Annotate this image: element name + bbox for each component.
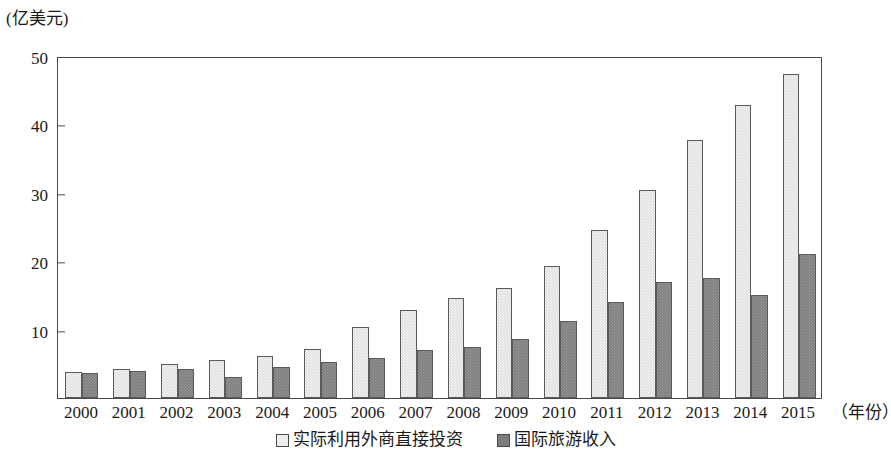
x-axis-tick-label: 2003 (207, 402, 241, 424)
x-axis-title: （年份） (831, 402, 891, 424)
bar-tourism (225, 377, 242, 398)
x-axis-tick-label: 2012 (638, 402, 672, 424)
x-axis-tick-label: 2006 (351, 402, 385, 424)
bar-group (400, 58, 433, 398)
bar-group (209, 58, 242, 398)
legend-item: 实际利用外商直接投资 (276, 429, 463, 451)
x-axis-tick-label: 2013 (685, 402, 719, 424)
bar-group (544, 58, 577, 398)
bar-group (161, 58, 194, 398)
bar-tourism (751, 295, 768, 398)
bar-fdi (352, 327, 369, 398)
bar-group (257, 58, 290, 398)
x-axis-tick-label: 2015 (781, 402, 815, 424)
bar-fdi (544, 266, 561, 398)
bar-group (448, 58, 481, 398)
x-axis-tick-label: 2011 (590, 402, 623, 424)
bar-tourism (464, 347, 481, 398)
y-axis-tick-label: 20 (31, 255, 58, 272)
legend-swatch-fdi-icon (276, 434, 289, 447)
bar-fdi (639, 190, 656, 398)
bar-group (496, 58, 529, 398)
bar-fdi (783, 74, 800, 398)
x-axis-tick-label: 2002 (160, 402, 194, 424)
bar-tourism (560, 321, 577, 398)
bar-group (304, 58, 337, 398)
x-axis-tick-label: 2001 (112, 402, 146, 424)
bar-group (735, 58, 768, 398)
bar-tourism (178, 369, 195, 398)
bar-fdi (496, 288, 513, 398)
bar-fdi (448, 298, 465, 398)
chart-legend: 实际利用外商直接投资国际旅游收入 (0, 429, 891, 451)
plot-area: 1020304050 (57, 57, 822, 399)
bar-tourism (417, 350, 434, 398)
bar-fdi (400, 310, 417, 398)
y-axis-unit-caption: (亿美元) (6, 4, 68, 29)
bar-group (639, 58, 672, 398)
bar-chart: (亿美元) 1020304050 20002001200220032004200… (0, 0, 891, 455)
x-axis-tick-label: 2005 (303, 402, 337, 424)
bar-tourism (273, 367, 290, 398)
bar-tourism (512, 339, 529, 399)
legend-item: 国际旅游收入 (497, 429, 616, 451)
x-axis-tick-label: 2004 (255, 402, 289, 424)
bar-group (591, 58, 624, 398)
legend-label: 实际利用外商直接投资 (293, 429, 463, 451)
bar-fdi (257, 356, 274, 398)
bar-fdi (735, 105, 752, 398)
bar-tourism (369, 358, 386, 398)
x-axis-tick-label: 2000 (64, 402, 98, 424)
bar-tourism (656, 282, 673, 398)
bar-tourism (703, 278, 720, 398)
y-axis-tick-label: 40 (31, 118, 58, 135)
bar-tourism (130, 371, 147, 398)
bar-group (783, 58, 816, 398)
bar-fdi (113, 369, 130, 398)
bar-group (352, 58, 385, 398)
bar-fdi (65, 372, 82, 398)
bar-tourism (799, 254, 816, 398)
legend-label: 国际旅游收入 (514, 429, 616, 451)
x-axis-tick-label: 2010 (542, 402, 576, 424)
bar-fdi (304, 349, 321, 398)
bar-tourism (608, 302, 625, 398)
bar-fdi (161, 364, 178, 398)
legend-swatch-tourism-icon (497, 434, 510, 447)
bar-group (65, 58, 98, 398)
x-axis-tick-label: 2008 (446, 402, 480, 424)
y-axis-tick-label: 10 (31, 323, 58, 340)
y-axis-tick-label: 50 (31, 50, 58, 67)
bar-tourism (321, 362, 338, 398)
bar-group (113, 58, 146, 398)
x-axis-labels: 2000200120022003200420052006200720082009… (57, 402, 822, 428)
bar-groups (58, 58, 821, 398)
bar-fdi (687, 140, 704, 398)
x-axis-tick-label: 2014 (733, 402, 767, 424)
bar-tourism (82, 373, 99, 398)
x-axis-tick-label: 2009 (494, 402, 528, 424)
bar-fdi (209, 360, 226, 398)
y-axis-tick-label: 30 (31, 186, 58, 203)
bar-fdi (591, 230, 608, 398)
bar-group (687, 58, 720, 398)
x-axis-tick-label: 2007 (399, 402, 433, 424)
